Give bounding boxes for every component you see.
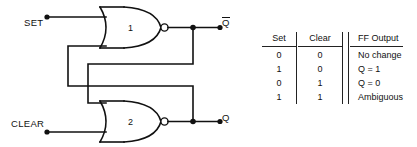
cell-ff-output: Q = 0 bbox=[350, 76, 403, 90]
clear-input-label: CLEAR bbox=[11, 118, 44, 129]
qbar-overline-text: Q bbox=[222, 17, 230, 28]
cell-ff-output: Q = 1 bbox=[350, 62, 403, 76]
header-clear: Clear bbox=[298, 32, 343, 47]
header-set: Set bbox=[262, 32, 297, 47]
table-row: 0 1 Q = 0 bbox=[262, 76, 403, 90]
table-row: 1 0 Q = 1 bbox=[262, 62, 403, 76]
schematic-page: SET CLEAR Q Q 1 2 Set Clear FF Output bbox=[0, 0, 417, 147]
cell-clear: 0 bbox=[298, 48, 343, 62]
cell-ff-output: Ambiguous bbox=[350, 90, 403, 104]
gate-1-number-label: 1 bbox=[128, 23, 133, 33]
q-junction-dot bbox=[190, 119, 196, 125]
gate-2-inversion-bubble bbox=[161, 118, 168, 125]
gate-1-inversion-bubble bbox=[161, 24, 168, 31]
table-row: 0 0 No change bbox=[262, 48, 403, 62]
cell-ff-output: No change bbox=[350, 48, 403, 62]
header-ff-output: FF Output bbox=[350, 32, 403, 47]
gate-2-back-arc bbox=[100, 101, 106, 142]
set-terminal-dot bbox=[44, 14, 49, 19]
cell-set: 0 bbox=[262, 48, 297, 62]
q-output-label: Q bbox=[222, 112, 230, 123]
truth-table-grid: Set Clear FF Output bbox=[262, 32, 403, 104]
qbar-junction-dot bbox=[190, 25, 196, 31]
truth-table-header-row: Set Clear FF Output bbox=[262, 32, 403, 47]
gate-2-number-label: 2 bbox=[128, 117, 133, 127]
cell-set: 1 bbox=[262, 90, 297, 104]
set-input-label: SET bbox=[24, 17, 43, 28]
cell-clear: 0 bbox=[298, 62, 343, 76]
gate-1-back-arc bbox=[100, 7, 106, 48]
table-row: 1 1 Ambiguous bbox=[262, 90, 403, 104]
qbar-output-label: Q bbox=[222, 17, 230, 28]
clear-terminal-dot bbox=[44, 129, 49, 134]
truth-table: Set Clear FF Output bbox=[262, 32, 410, 104]
latch-circuit-diagram: SET CLEAR Q Q 1 2 bbox=[0, 0, 250, 147]
cell-set: 1 bbox=[262, 62, 297, 76]
cell-clear: 1 bbox=[298, 90, 343, 104]
cell-clear: 1 bbox=[298, 76, 343, 90]
feedback-wire-gate2-to-gate1 bbox=[68, 46, 193, 122]
cell-set: 0 bbox=[262, 76, 297, 90]
